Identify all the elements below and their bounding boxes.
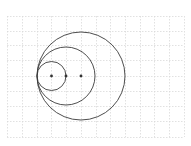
large-circle-center — [80, 75, 83, 78]
medium-circle-center — [65, 75, 68, 78]
small-circle-center — [50, 75, 53, 78]
tangent-circles-diagram — [0, 0, 191, 146]
center-points-group — [50, 75, 82, 78]
